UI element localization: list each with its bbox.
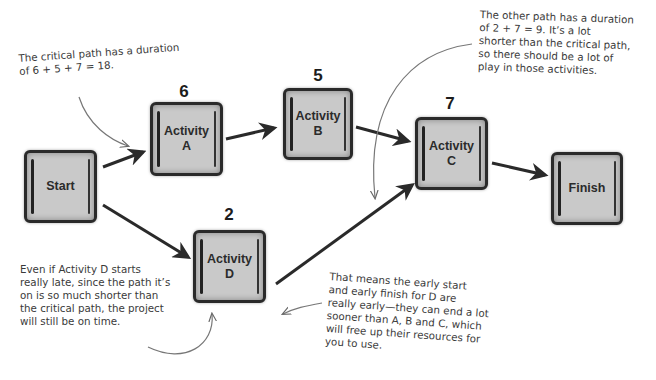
node-activity-c-label: Activity C [429,139,474,169]
node-activity-d: Activity D [193,230,266,303]
duration-activity-d: 2 [224,205,233,225]
edge-c-to-finish [492,163,545,175]
node-activity-a: Activity A [150,102,223,176]
node-activity-b-label: Activity B [295,109,340,139]
node-finish-label: Finish [569,181,606,196]
duration-activity-c: 7 [445,94,454,114]
note-other-path: The other path has a duration of 2 + 7 =… [478,8,656,79]
edge-b-to-c [356,127,408,141]
node-activity-b: Activity B [283,88,353,160]
node-start: Start [24,150,97,223]
note-activity-d-late: Even if Activity D starts really late, s… [20,263,170,328]
duration-activity-a: 6 [179,82,188,102]
duration-activity-b: 5 [313,66,322,86]
node-finish: Finish [551,152,623,225]
node-activity-d-label: Activity D [207,252,252,282]
edge-start-to-d [103,205,188,257]
edge-a-to-b [226,128,274,139]
node-activity-a-label: Activity A [164,124,209,154]
node-start-label: Start [46,179,74,194]
pointer-early-start-finish [283,303,322,314]
pointer-critical-path [79,97,128,146]
edge-d-to-c [276,185,412,284]
node-activity-c: Activity C [415,117,488,190]
note-early-start-finish: That means the early start and early fin… [325,270,491,359]
edge-start-to-a [103,152,143,167]
